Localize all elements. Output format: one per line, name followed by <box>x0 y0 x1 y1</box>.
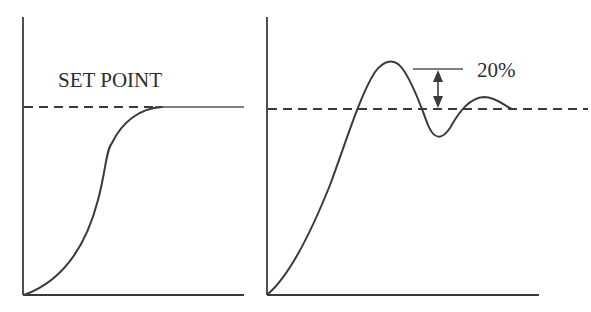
setpoint-label: SET POINT <box>58 70 162 91</box>
left-response-curve <box>24 107 162 295</box>
right-panel <box>267 17 588 295</box>
right-response-curve <box>268 62 512 294</box>
double-arrow-icon <box>433 70 443 108</box>
diagram-canvas <box>0 0 591 312</box>
overshoot-percent-label: 20% <box>477 60 516 81</box>
left-panel <box>23 17 244 295</box>
